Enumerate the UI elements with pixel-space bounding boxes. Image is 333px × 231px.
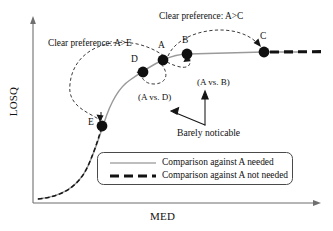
point-label-b: B [182, 36, 188, 46]
leader-up-arrowhead [202, 91, 208, 99]
arc-a-to-e [70, 42, 164, 120]
point-label-e: E [88, 118, 94, 128]
annotation-pref-a-over-e: Clear preference: A>E [48, 39, 132, 48]
legend-label-not-needed: Comparison against A not needed [162, 171, 288, 180]
losq-med-figure: LOSQ MED Clear preference: A>E Clear pre… [0, 0, 333, 231]
point-label-a: A [158, 41, 165, 51]
marker-point-a[interactable] [158, 55, 169, 66]
annotation-pref-a-over-c: Clear preference: A>C [159, 12, 243, 21]
annotation-barely-noticable: Barely noticable [177, 128, 240, 138]
annotation-a-vs-d: (A vs. D) [138, 93, 171, 102]
annotation-a-vs-b: (A vs. B) [197, 78, 230, 87]
plot-canvas [0, 0, 333, 231]
x-axis-label: MED [150, 211, 175, 222]
marker-point-d[interactable] [138, 67, 149, 78]
arc-arrowheads [97, 39, 262, 122]
data-point-markers [97, 47, 270, 132]
point-label-d: D [131, 55, 138, 65]
marker-point-b[interactable] [182, 49, 193, 60]
point-label-c: C [260, 32, 266, 42]
marker-point-c[interactable] [259, 47, 270, 58]
x-axis-arrowhead [313, 200, 321, 206]
y-axis-label: LOSQ [8, 80, 19, 124]
barely-noticable-leaders [171, 91, 208, 125]
marker-point-e[interactable] [97, 121, 108, 132]
leader-left-to-avsd [176, 113, 205, 125]
y-axis-arrowhead [30, 16, 36, 24]
legend-label-needed: Comparison against A needed [162, 158, 274, 167]
leader-left-arrowhead [171, 108, 179, 115]
